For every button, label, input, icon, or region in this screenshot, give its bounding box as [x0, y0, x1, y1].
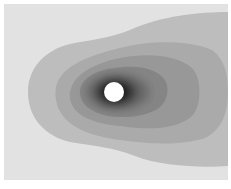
obstacle-circle: [104, 82, 124, 102]
contour-plot: [0, 0, 231, 189]
